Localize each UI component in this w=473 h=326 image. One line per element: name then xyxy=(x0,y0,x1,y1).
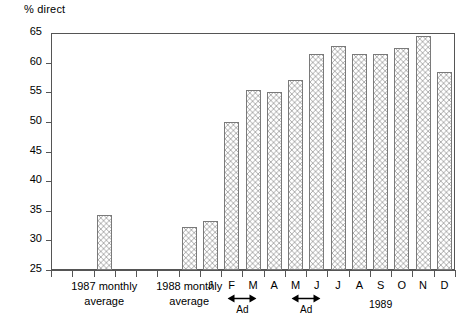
x-axis-month-label: O xyxy=(398,279,407,291)
x-axis-tick-mark xyxy=(370,270,371,277)
x-axis-tick-mark xyxy=(157,270,158,277)
bar xyxy=(309,54,324,270)
x-axis-tick-mark xyxy=(412,270,413,277)
x-axis-tick-mark xyxy=(434,270,435,277)
y-axis-tick-label: 50 xyxy=(30,114,42,126)
x-axis-month-label: M xyxy=(291,279,300,291)
x-axis-tick-mark xyxy=(72,270,73,277)
x-axis-tick-mark xyxy=(221,270,222,277)
y-axis-tick-label: 40 xyxy=(30,173,42,185)
x-axis-tick-mark xyxy=(136,270,137,277)
y-axis-tick-label: 55 xyxy=(30,84,42,96)
y-axis-tick-label: 60 xyxy=(30,55,42,67)
x-axis-month-label: A xyxy=(356,279,363,291)
x-axis-month-label: A xyxy=(271,279,278,291)
y-axis-title: % direct xyxy=(24,3,65,15)
group-label-line: average xyxy=(71,294,137,309)
bar-chart: % direct 656055504540353025 JFMAMJJASOND… xyxy=(0,0,473,326)
bar xyxy=(394,48,409,270)
y-axis-tick-label: 25 xyxy=(30,262,42,274)
x-axis-tick-mark xyxy=(306,270,307,277)
y-axis-tick-mark xyxy=(46,122,51,123)
ad-annotation: Ad xyxy=(228,294,257,315)
y-axis-tick-mark xyxy=(46,240,51,241)
bar xyxy=(203,221,218,270)
x-axis-month-label: D xyxy=(440,279,448,291)
bar xyxy=(288,80,303,270)
x-axis-group-label: 1988 monthlyaverage xyxy=(156,279,222,309)
bar xyxy=(246,90,261,270)
bar xyxy=(352,54,367,270)
x-axis-month-label: S xyxy=(377,279,384,291)
x-axis-tick-mark xyxy=(285,270,286,277)
bar xyxy=(267,92,282,270)
x-axis-tick-mark xyxy=(327,270,328,277)
y-axis-tick-mark xyxy=(46,63,51,64)
x-axis-tick-mark xyxy=(115,270,116,277)
bar xyxy=(416,36,431,270)
x-axis-month-label: F xyxy=(228,279,235,291)
group-label-line: average xyxy=(156,294,222,309)
double-arrow-icon xyxy=(292,294,321,303)
bar xyxy=(331,46,346,270)
ad-annotation-label: Ad xyxy=(228,304,257,315)
y-axis-tick-mark xyxy=(46,181,51,182)
ad-annotation: Ad xyxy=(292,294,321,315)
x-axis-group-label: 1987 monthlyaverage xyxy=(71,279,137,309)
group-label-line: 1987 monthly xyxy=(71,279,137,294)
x-axis-tick-mark xyxy=(200,270,201,277)
y-axis-tick-label: 35 xyxy=(30,203,42,215)
ad-annotation-label: Ad xyxy=(292,304,321,315)
y-axis-tick-mark xyxy=(46,211,51,212)
x-axis-tick-mark xyxy=(264,270,265,277)
x-axis-month-label: J xyxy=(314,279,320,291)
y-axis-tick-label: 65 xyxy=(30,25,42,37)
y-axis-tick-label: 45 xyxy=(30,144,42,156)
group-label-line: 1988 monthly xyxy=(156,279,222,294)
bar xyxy=(97,215,112,270)
x-axis-month-label: M xyxy=(248,279,257,291)
bar xyxy=(224,122,239,270)
x-axis-tick-mark xyxy=(51,270,52,277)
x-axis-tick-mark xyxy=(455,270,456,277)
y-axis-tick-mark xyxy=(46,92,51,93)
bar xyxy=(373,54,388,270)
x-axis-line xyxy=(51,270,455,271)
x-axis-month-label: N xyxy=(419,279,427,291)
x-axis-year-label: 1989 xyxy=(369,298,392,310)
x-axis-tick-mark xyxy=(391,270,392,277)
double-arrow-icon xyxy=(228,294,257,303)
y-axis-tick-label: 30 xyxy=(30,232,42,244)
bar xyxy=(437,72,452,270)
x-axis-tick-mark xyxy=(94,270,95,277)
y-axis-tick-mark xyxy=(46,152,51,153)
x-axis-tick-mark xyxy=(242,270,243,277)
x-axis-tick-mark xyxy=(349,270,350,277)
bar xyxy=(182,227,197,270)
x-axis-tick-mark xyxy=(179,270,180,277)
x-axis-month-label: J xyxy=(335,279,341,291)
